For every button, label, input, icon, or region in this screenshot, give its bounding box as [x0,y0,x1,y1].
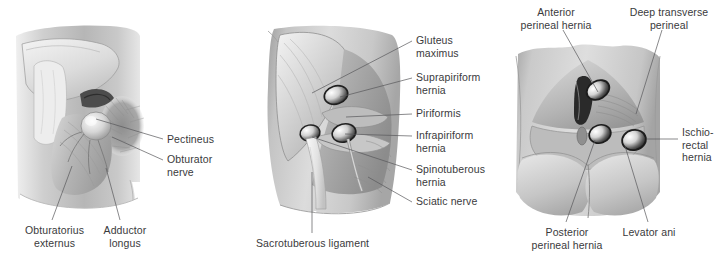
label-ischiorectal-hernia: Ischio- rectal hernia [682,126,714,164]
label-sacrotuberous-ligament: Sacrotuberous ligament [256,237,369,250]
illustration-gluteal-region [258,25,408,225]
label-infrapiriform-hernia: Infrapiriform hernia [416,129,473,154]
gluteal-region-drawing [258,25,408,225]
pectineus-bulge [81,112,111,140]
illustration-perineal-region [508,42,668,220]
label-gluteus-maximus: Gluteus maximus [416,34,459,59]
perineal-region-drawing [508,42,668,220]
label-suprapiriform-hernia: Suprapiriform hernia [416,71,480,96]
label-piriformis: Piriformis [416,107,461,120]
label-levator-ani: Levator ani [608,226,690,239]
label-obturator-nerve: Obturator nerve [167,153,212,178]
label-pectineus: Pectineus [167,133,214,146]
illustration-anterior-thigh [10,22,150,218]
label-deep-transverse-perineal: Deep transverse perineal [618,6,720,31]
label-sciatic-nerve: Sciatic nerve [416,195,477,208]
label-anterior-perineal-hernia: Anterior perineal hernia [498,6,614,31]
anatomical-figure-hernia-sites: Pectineus Obturator nerve Obturatorius e… [0,0,720,266]
label-spinotuberous-hernia: Spinotuberous hernia [416,163,485,188]
bulge-highlight [85,116,97,126]
anal-canal [577,127,587,145]
label-adductor-longus: Adductor longus [80,224,170,249]
anterior-thigh-drawing [10,22,150,218]
